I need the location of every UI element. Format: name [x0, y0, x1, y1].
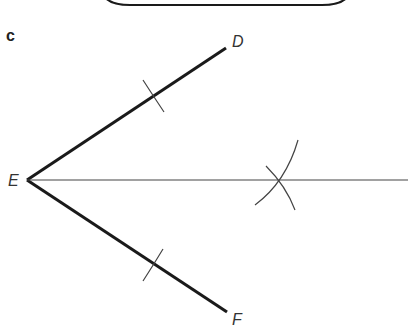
arc-from-D-mark	[255, 140, 298, 205]
previous-panel-box-edge	[104, 0, 348, 5]
point-label-E: E	[8, 172, 19, 189]
point-label-D: D	[232, 33, 244, 50]
point-label-F: F	[232, 311, 243, 328]
arc-from-F-mark	[266, 166, 295, 210]
part-label: c	[6, 27, 15, 44]
angle-bisector-diagram: c D E F	[0, 0, 408, 335]
arc-on-EF	[143, 249, 163, 281]
segment-ED	[27, 48, 226, 180]
arc-on-ED	[143, 80, 164, 112]
segment-EF	[27, 180, 227, 312]
